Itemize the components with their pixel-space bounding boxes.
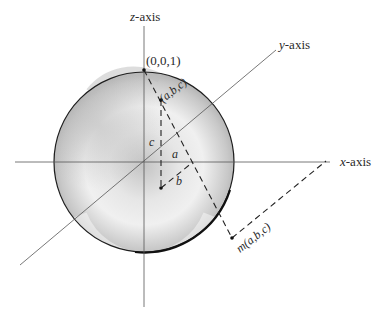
projection-to-x-axis — [232, 161, 326, 238]
segment-b-label: b — [176, 174, 182, 188]
segment-a-label: a — [172, 147, 178, 161]
segment-c-label: c — [149, 135, 155, 149]
north-pole-label: (0,0,1) — [146, 53, 181, 68]
y-axis-label: y-axis — [277, 37, 310, 52]
z-axis-label: z-axis — [129, 9, 160, 24]
x-axis-label: x-axis — [339, 154, 371, 169]
projection-point — [230, 236, 234, 240]
north-pole-point — [142, 68, 146, 72]
projection-point-label: m(a,b,c) — [233, 220, 273, 256]
foot-point — [159, 186, 163, 190]
stereographic-projection-diagram: z-axis y-axis x-axis (0,0,1) (a,b,c) m(a… — [0, 0, 377, 321]
